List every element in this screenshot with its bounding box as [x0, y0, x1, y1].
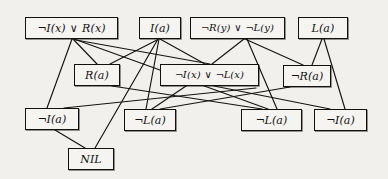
edge-n3-n6	[212, 39, 244, 64]
negation-symbol: ¬	[175, 69, 183, 80]
clause-label: L(a)	[312, 22, 335, 33]
negation-symbol: ¬	[256, 113, 265, 126]
clause-label: NIL	[80, 153, 102, 164]
clause-node-n12[interactable]: NIL	[68, 148, 114, 170]
disjunction-symbol: ∨	[234, 22, 242, 33]
negation-symbol: ¬	[38, 112, 47, 125]
negation-symbol: ¬	[37, 21, 46, 34]
clause-node-n10[interactable]: ¬L(a)	[241, 109, 302, 131]
edge-n1-n6	[76, 40, 210, 64]
clause-label: ¬R(y) ∨ ¬L(y)	[201, 23, 274, 33]
clause-label: I(a)	[150, 22, 170, 33]
edge-n2-n6	[160, 39, 205, 64]
negation-symbol: ¬	[134, 113, 143, 126]
clause-node-n3[interactable]: ¬R(y) ∨ ¬L(y)	[190, 17, 285, 39]
disjunction-symbol: ∨	[204, 69, 212, 80]
clause-label: R(a)	[85, 69, 109, 80]
edge-n8-n12	[55, 130, 85, 148]
edge-n1-n8	[47, 39, 72, 108]
clause-label: ¬I(x) ∨ ¬L(x)	[175, 70, 244, 80]
clause-label: ¬I(a)	[38, 113, 67, 124]
clause-label: ¬L(a)	[134, 114, 166, 125]
clause-label: ¬R(a)	[291, 70, 324, 81]
negation-symbol: ¬	[245, 22, 253, 33]
clause-node-n1[interactable]: ¬I(x) ∨ R(x)	[25, 17, 118, 39]
disjunction-symbol: ∨	[69, 21, 78, 34]
negation-symbol: ¬	[291, 69, 300, 82]
clause-node-n8[interactable]: ¬I(a)	[25, 108, 79, 130]
clause-node-n6[interactable]: ¬I(x) ∨ ¬L(x)	[160, 64, 259, 86]
clause-node-n4[interactable]: L(a)	[298, 17, 348, 39]
clause-node-n11[interactable]: ¬I(a)	[314, 109, 367, 131]
clause-node-n5[interactable]: R(a)	[74, 64, 120, 86]
clause-node-n9[interactable]: ¬L(a)	[124, 109, 176, 131]
clause-label: ¬I(a)	[326, 114, 355, 125]
clause-label: ¬I(x) ∨ R(x)	[37, 22, 105, 33]
diagram-canvas: ¬I(x) ∨ R(x)I(a)¬R(y) ∨ ¬L(y)L(a)R(a)¬I(…	[0, 0, 388, 179]
clause-node-n7[interactable]: ¬R(a)	[283, 65, 331, 87]
clause-label: ¬L(a)	[256, 114, 288, 125]
clause-node-n2[interactable]: I(a)	[139, 17, 181, 39]
negation-symbol: ¬	[216, 69, 224, 80]
edge-n4-n7	[312, 39, 322, 65]
negation-symbol: ¬	[201, 22, 209, 33]
edge-n3-n7	[245, 39, 303, 65]
negation-symbol: ¬	[326, 113, 335, 126]
